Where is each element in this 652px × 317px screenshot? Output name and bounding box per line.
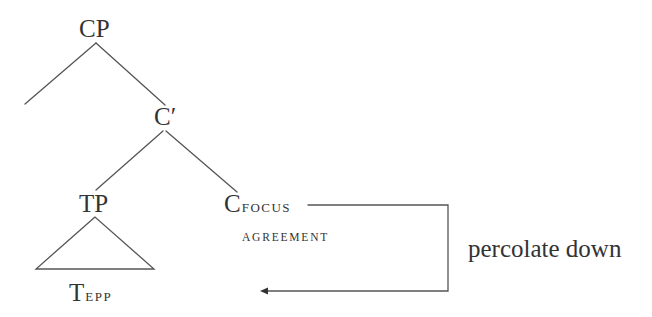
tree-lines	[0, 0, 652, 317]
arrowhead-icon	[260, 288, 268, 295]
node-t-epp-subscript: EPP	[85, 289, 112, 304]
edge-cp-spec	[25, 43, 96, 104]
node-t-epp: TEPP	[69, 280, 112, 305]
edge-cp-cbar	[96, 43, 165, 105]
node-tp-label: TP	[79, 190, 108, 217]
node-c-focus: CFOCUS	[224, 191, 291, 216]
node-cp: CP	[79, 16, 110, 41]
node-c-focus-feature: AGREEMENT	[242, 232, 329, 244]
node-c-focus-head: C	[224, 190, 241, 217]
percolate-arrow-path	[266, 205, 448, 291]
edge-cbar-tp	[96, 131, 163, 190]
node-cp-label: CP	[79, 15, 110, 42]
percolate-down-label: percolate down	[468, 236, 621, 261]
tp-triangle	[36, 217, 154, 269]
node-c-bar-label: C′	[154, 103, 176, 130]
edge-cbar-cfocus	[166, 131, 237, 192]
node-tp: TP	[79, 191, 108, 216]
node-c-focus-subscript: FOCUS	[242, 200, 291, 215]
node-c-bar: C′	[154, 104, 176, 129]
node-t-epp-head: T	[69, 279, 84, 306]
